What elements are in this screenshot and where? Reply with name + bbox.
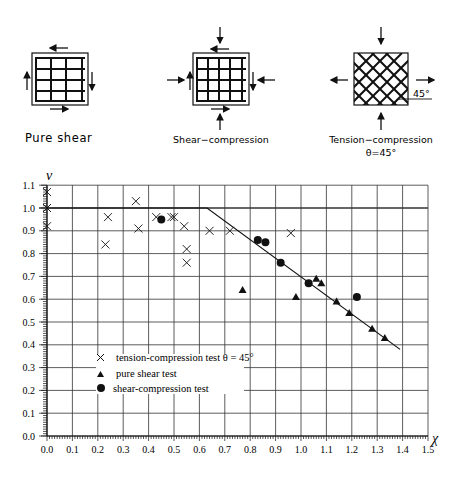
x-tick-label: 0.1 <box>66 444 79 455</box>
shear-compression-diagram: Shear−compression <box>167 27 275 145</box>
y-tick-label: 0.8 <box>23 248 36 259</box>
x-marker-icon <box>180 222 188 230</box>
x-tick-label: 0.2 <box>92 444 105 455</box>
circle-marker-icon <box>277 259 285 267</box>
y-tick-label: 0.9 <box>23 225 36 236</box>
x-tick-label: 0.8 <box>244 444 257 455</box>
theta-label: θ=45° <box>366 147 397 158</box>
circle-marker-icon <box>305 279 313 287</box>
triangle-marker-icon <box>292 293 300 300</box>
x-marker-icon <box>132 197 140 205</box>
legend-label: pure shear test <box>116 368 177 379</box>
circle-marker-icon <box>157 215 165 223</box>
triangle-marker-icon <box>312 275 320 282</box>
y-tick-label: 0.3 <box>23 362 36 373</box>
y-tick-label: 1.1 <box>23 180 36 191</box>
x-tick-label: 1.3 <box>371 444 384 455</box>
x-tick-label: 1.2 <box>346 444 359 455</box>
angle-label: 45° <box>413 88 430 99</box>
x-tick-label: 0.0 <box>41 444 54 455</box>
tension-compression-diagram: 45° Tension−compression θ=45° <box>316 27 444 158</box>
grid <box>39 185 428 436</box>
x-tick-label: 1.0 <box>295 444 308 455</box>
y-tick-label: 0.0 <box>23 431 36 442</box>
data-points <box>43 188 389 341</box>
y-tick-label: 1.0 <box>23 203 36 214</box>
limit-curve <box>47 208 400 349</box>
y-axis-label: ν <box>46 168 53 183</box>
y-tick-label: 0.4 <box>23 339 36 350</box>
y-tick-label: 0.1 <box>23 408 36 419</box>
x-tick-labels: 0.00.10.20.30.40.50.60.70.80.91.01.11.21… <box>41 444 435 455</box>
x-marker-icon <box>134 225 142 233</box>
y-tick-label: 0.5 <box>23 317 36 328</box>
legend-item-shear-compression: shear-compression test <box>97 383 209 394</box>
x-tick-label: 0.6 <box>193 444 206 455</box>
y-tick-label: 0.7 <box>23 271 36 282</box>
circle-marker-icon <box>97 384 105 392</box>
x-tick-label: 0.7 <box>219 444 232 455</box>
reinforcement-grid-icon <box>196 57 246 102</box>
legend-label: tension-compression test θ = 45° <box>116 352 254 363</box>
x-tick-label: 0.5 <box>168 444 181 455</box>
figure: Pure shear Shear−compression <box>0 0 462 481</box>
legend-item-tension-compression: tension-compression test θ = 45° <box>97 352 254 363</box>
shear-compression-arrows-icon <box>167 27 275 130</box>
x-axis-label: χ <box>430 431 439 446</box>
legend: tension-compression test θ = 45° pure sh… <box>96 352 254 394</box>
x-tick-label: 0.4 <box>142 444 155 455</box>
circle-marker-icon <box>261 238 269 246</box>
x-tick-label: 0.3 <box>117 444 130 455</box>
circle-marker-icon <box>353 293 361 301</box>
shear-compression-label: Shear−compression <box>173 134 269 145</box>
y-tick-label: 0.6 <box>23 294 36 305</box>
x-marker-icon <box>183 245 191 253</box>
reinforcement-grid-icon <box>35 58 85 101</box>
triangle-marker-icon <box>368 325 376 332</box>
y-tick-label: 0.2 <box>23 385 36 396</box>
x-marker-icon <box>287 229 295 237</box>
x-marker-icon <box>104 213 112 221</box>
triangle-marker-icon <box>239 286 247 293</box>
x-tick-label: 1.4 <box>396 444 409 455</box>
pure-shear-label: Pure shear <box>25 131 92 145</box>
legend-label: shear-compression test <box>113 383 209 394</box>
y-tick-labels: 0.00.10.20.30.40.50.60.70.80.91.01.1 <box>23 180 36 442</box>
axes <box>41 185 428 441</box>
x-tick-label: 0.9 <box>269 444 282 455</box>
x-tick-label: 1.1 <box>320 444 333 455</box>
x-marker-icon <box>101 240 109 248</box>
circle-marker-icon <box>254 236 262 244</box>
scatter-chart: 0.00.10.20.30.40.50.60.70.80.91.01.1 0.0… <box>23 168 440 455</box>
triangle-marker-icon <box>381 334 389 341</box>
tension-compression-label: Tension−compression <box>328 134 433 145</box>
x-marker-icon <box>183 259 191 267</box>
pure-shear-diagram: Pure shear <box>25 48 92 145</box>
